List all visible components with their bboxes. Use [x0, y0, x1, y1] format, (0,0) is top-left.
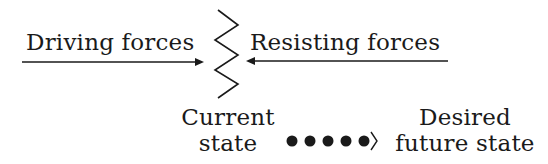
zigzag-barrier [215, 10, 238, 98]
desired-state-line1: Desired [382, 104, 548, 130]
current-state-label: Current state [180, 104, 276, 156]
resisting-forces-arrow [246, 57, 448, 65]
desired-state-line2: future state [382, 130, 548, 156]
current-state-line1: Current [180, 104, 276, 130]
driving-forces-arrow [22, 58, 204, 66]
desired-state-label: Desired future state [382, 104, 548, 156]
resisting-forces-label: Resisting forces [250, 31, 440, 54]
driving-forces-label: Driving forces [26, 31, 194, 54]
transition-chevron-icon [371, 132, 377, 150]
current-state-line2: state [180, 130, 276, 156]
transition-dots [287, 136, 370, 147]
